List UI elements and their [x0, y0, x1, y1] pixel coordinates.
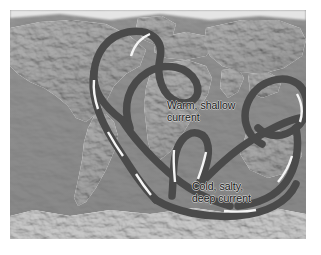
arrow-marker-north-atlantic [131, 34, 150, 56]
arrow-marker-southern-band [224, 210, 256, 212]
current-south-atlantic-shallow [93, 72, 156, 200]
arrow-marker-atlantic-mid [108, 132, 123, 156]
conveyor-belt-figure: Warm, shallow current Cold, salty, deep … [0, 0, 321, 255]
current-north-atlantic-loop [94, 31, 198, 128]
arrow-marker-indian-up [174, 150, 175, 182]
world-map-panel: Warm, shallow current Cold, salty, deep … [10, 10, 306, 239]
ocean-current-ribbon [10, 10, 306, 239]
